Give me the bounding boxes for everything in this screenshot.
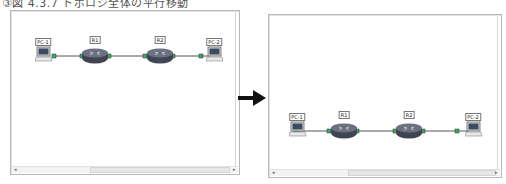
arrow-right-icon xyxy=(238,90,266,106)
pc-icon xyxy=(289,121,307,139)
canvas-before[interactable]: PC-1 R1 R2 PC-2 xyxy=(10,10,240,175)
topology-before xyxy=(11,11,241,176)
horizontal-scrollbar[interactable]: ◂ ▸ xyxy=(270,169,500,176)
scroll-right-icon[interactable]: ▸ xyxy=(495,171,498,174)
canvas-after[interactable]: PC-1 R1 R2 PC-2 xyxy=(268,14,502,178)
router-icon xyxy=(395,123,423,139)
scroll-thumb[interactable] xyxy=(90,167,230,173)
pc-icon xyxy=(465,121,483,139)
label-r1: R1 xyxy=(339,111,350,119)
label-pc-2: PC-2 xyxy=(206,38,222,46)
router-icon xyxy=(146,48,174,64)
scroll-left-icon[interactable]: ◂ xyxy=(272,171,275,174)
pc-icon xyxy=(35,46,53,64)
scroll-right-icon[interactable]: ▸ xyxy=(233,168,236,171)
label-pc-1: PC-1 xyxy=(35,38,51,46)
horizontal-scrollbar[interactable]: ◂ ▸ xyxy=(12,166,238,173)
scroll-left-icon[interactable]: ◂ xyxy=(14,168,17,171)
router-icon xyxy=(81,48,109,64)
vertical-scroll-track[interactable] xyxy=(235,12,236,166)
router-icon xyxy=(330,123,358,139)
pc-icon xyxy=(206,46,224,64)
label-pc-2: PC-2 xyxy=(465,113,481,121)
topology-after xyxy=(269,15,503,179)
label-r2: R2 xyxy=(155,36,166,44)
vertical-scroll-track[interactable] xyxy=(497,16,498,169)
label-pc-1: PC-1 xyxy=(289,113,305,121)
figure-caption: ③図 4.3.7 トポロジ全体の平行移動 xyxy=(2,0,189,10)
scroll-thumb[interactable] xyxy=(348,170,496,176)
label-r2: R2 xyxy=(404,111,415,119)
label-r1: R1 xyxy=(90,36,101,44)
